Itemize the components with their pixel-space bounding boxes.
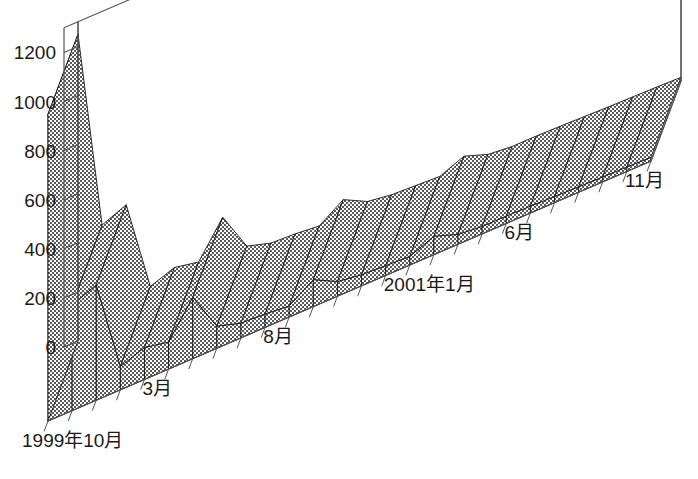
- y-tick-label: 1200: [14, 42, 56, 63]
- y-tick-label: 800: [24, 141, 56, 162]
- x-tick-label: 2001年1月: [384, 274, 475, 295]
- chart-figure: 020040060080010001200 1999年10月3月8月2001年1…: [0, 0, 698, 479]
- x-tick-label: 6月: [504, 222, 534, 243]
- y-tick-label: 600: [24, 190, 56, 211]
- x-tick-label: 1999年10月: [22, 430, 123, 451]
- x-tick-label: 11月: [625, 170, 664, 191]
- x-tick-label: 8月: [263, 326, 293, 347]
- y-tick-label: 1000: [14, 92, 56, 113]
- area-chart-3d: 020040060080010001200 1999年10月3月8月2001年1…: [0, 0, 698, 479]
- y-tick-label: 0: [45, 337, 56, 358]
- y-tick-label: 200: [24, 288, 56, 309]
- y-tick-label: 400: [24, 239, 56, 260]
- x-tick-label: 3月: [143, 378, 173, 399]
